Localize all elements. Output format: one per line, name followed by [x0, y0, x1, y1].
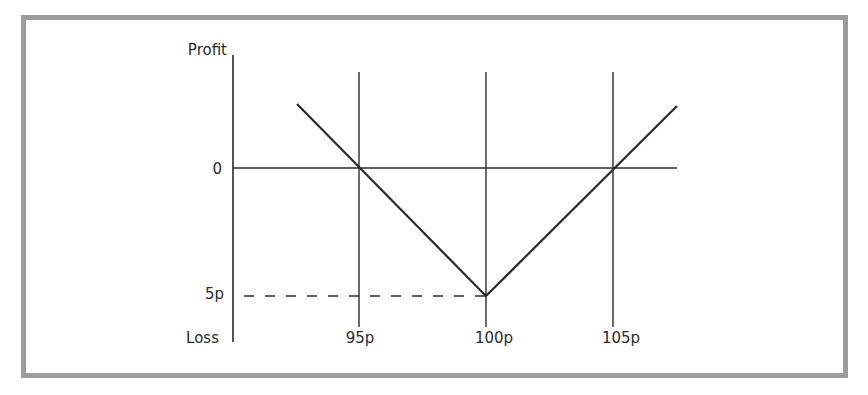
x-tick-95p: 95p: [346, 329, 375, 347]
y-tick-zero: 0: [212, 160, 222, 178]
y-label-loss: Loss: [186, 329, 219, 347]
y-tick-5p: 5p: [205, 285, 224, 303]
x-tick-100p: 100p: [475, 329, 513, 347]
x-tick-105p: 105p: [602, 329, 640, 347]
payoff-line: [297, 104, 677, 296]
payoff-chart: Profit 0 5p Loss 95p 100p 105p: [0, 0, 868, 395]
y-label-profit: Profit: [188, 41, 227, 59]
